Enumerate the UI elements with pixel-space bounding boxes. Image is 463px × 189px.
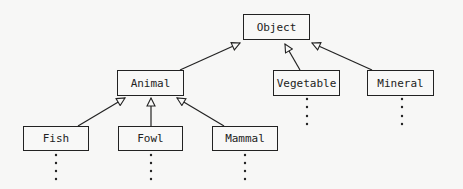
node-vegetable: Vegetable <box>273 70 340 96</box>
edge-mammal-animal <box>177 98 224 126</box>
node-mineral: Mineral <box>367 70 434 96</box>
node-fowl: Fowl <box>118 126 183 151</box>
mineral-continuation-dots <box>401 98 403 125</box>
fowl-continuation-dots <box>150 154 152 180</box>
node-animal: Animal <box>117 70 184 96</box>
edge-vegetable-object <box>285 44 300 70</box>
mammal-continuation-dots <box>244 154 246 180</box>
edge-fish-animal <box>78 98 125 126</box>
node-mammal: Mammal <box>212 126 278 151</box>
edge-mineral-object <box>312 43 372 70</box>
node-object: Object <box>243 14 310 40</box>
vegetable-continuation-dots <box>306 98 308 125</box>
fish-continuation-dots <box>55 154 57 180</box>
edge-animal-object <box>180 43 240 70</box>
node-fish: Fish <box>23 126 89 151</box>
